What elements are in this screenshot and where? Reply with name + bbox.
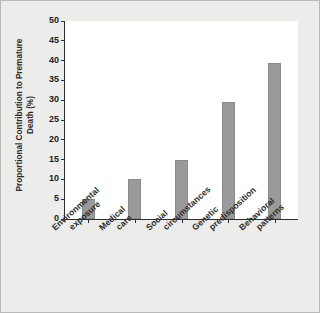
x-axis-tick [228, 219, 229, 223]
bar [222, 102, 235, 219]
y-tick-mark [61, 199, 65, 200]
y-tick-mark [61, 219, 65, 220]
bar [128, 179, 141, 219]
bar [175, 160, 188, 219]
y-tick-mark [61, 120, 65, 121]
y-tick-label: 5 [54, 193, 59, 204]
y-tick-mark [61, 139, 65, 140]
y-tick-label: 50 [49, 15, 59, 26]
y-tick-label: 45 [49, 35, 59, 46]
y-axis-title-line-1: Proportional Contribution to Premature [15, 16, 26, 214]
x-axis-tick [275, 219, 276, 223]
y-tick-mark [61, 21, 65, 22]
y-tick-mark [61, 100, 65, 101]
chart-figure: Proportional Contribution to Premature D… [0, 0, 320, 313]
y-tick-label: 35 [49, 74, 59, 85]
y-tick-label: 25 [49, 114, 59, 125]
y-tick-mark [61, 60, 65, 61]
y-tick-mark [61, 179, 65, 180]
y-axis-title: Proportional Contribution to Premature D… [11, 15, 39, 215]
y-tick-label: 0 [54, 213, 59, 224]
y-tick-mark [61, 40, 65, 41]
y-tick-label: 30 [49, 94, 59, 105]
bar [268, 63, 281, 219]
y-tick-mark [61, 159, 65, 160]
y-tick-label: 20 [49, 134, 59, 145]
y-axis-title-line-2: Death (%) [25, 16, 36, 214]
y-tick-mark [61, 80, 65, 81]
y-tick-label: 40 [49, 55, 59, 66]
x-axis-tick [88, 219, 89, 223]
x-axis-tick [135, 219, 136, 223]
bar [82, 199, 95, 219]
x-axis-tick [182, 219, 183, 223]
y-tick-label: 10 [49, 173, 59, 184]
plot-area: 05101520253035404550 [64, 21, 298, 220]
y-tick-label: 15 [49, 154, 59, 165]
